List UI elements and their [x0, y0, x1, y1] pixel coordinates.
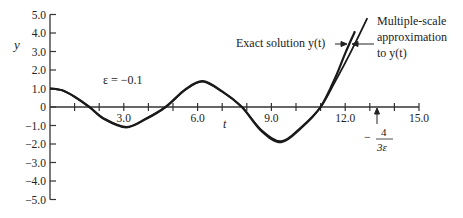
x-tick-label: 12.0: [335, 112, 355, 124]
y-tick-label: −5.0: [25, 194, 46, 206]
approx-label-line3: to y(t): [377, 46, 407, 60]
marker-numerator: 4: [381, 126, 387, 138]
y-tick-label: 3.0: [32, 46, 47, 58]
y-tick-label: −3.0: [25, 157, 46, 169]
y-tick-label: −1.0: [25, 120, 46, 132]
y-tick-label: 1.0: [32, 83, 47, 95]
x-tick-label: 6.0: [190, 112, 205, 124]
y-tick-label: 0: [40, 101, 46, 113]
exact-arrow-icon: [335, 42, 347, 47]
approx-label-line2: approximation: [377, 30, 447, 44]
y-tick-label: −2.0: [25, 138, 46, 150]
y-tick-label: 5.0: [32, 9, 47, 21]
x-axis-label: t: [223, 117, 227, 131]
y-tick-label: −4.0: [25, 175, 46, 187]
x-tick-label: 15.0: [409, 112, 429, 124]
approx-arrow-icon: [352, 42, 374, 47]
marker-denominator: 3ε: [376, 141, 388, 153]
x-tick-label: 9.0: [264, 112, 279, 124]
x-tick-label: 3.0: [117, 112, 132, 124]
epsilon-annotation: ε = −0.1: [103, 73, 143, 87]
y-axis-label: y: [12, 37, 20, 52]
chart: 3.06.09.012.015.05.04.03.02.01.00−1.0−2.…: [0, 0, 463, 218]
y-tick-label: 2.0: [32, 64, 47, 76]
approx-label-line1: Multiple-scale: [377, 14, 446, 28]
axes: [50, 15, 419, 200]
exact-solution-label: Exact solution y(t): [236, 36, 325, 50]
marker-arrow-icon: [375, 108, 380, 124]
marker-minus: −: [364, 130, 371, 144]
y-tick-label: 4.0: [32, 27, 47, 39]
